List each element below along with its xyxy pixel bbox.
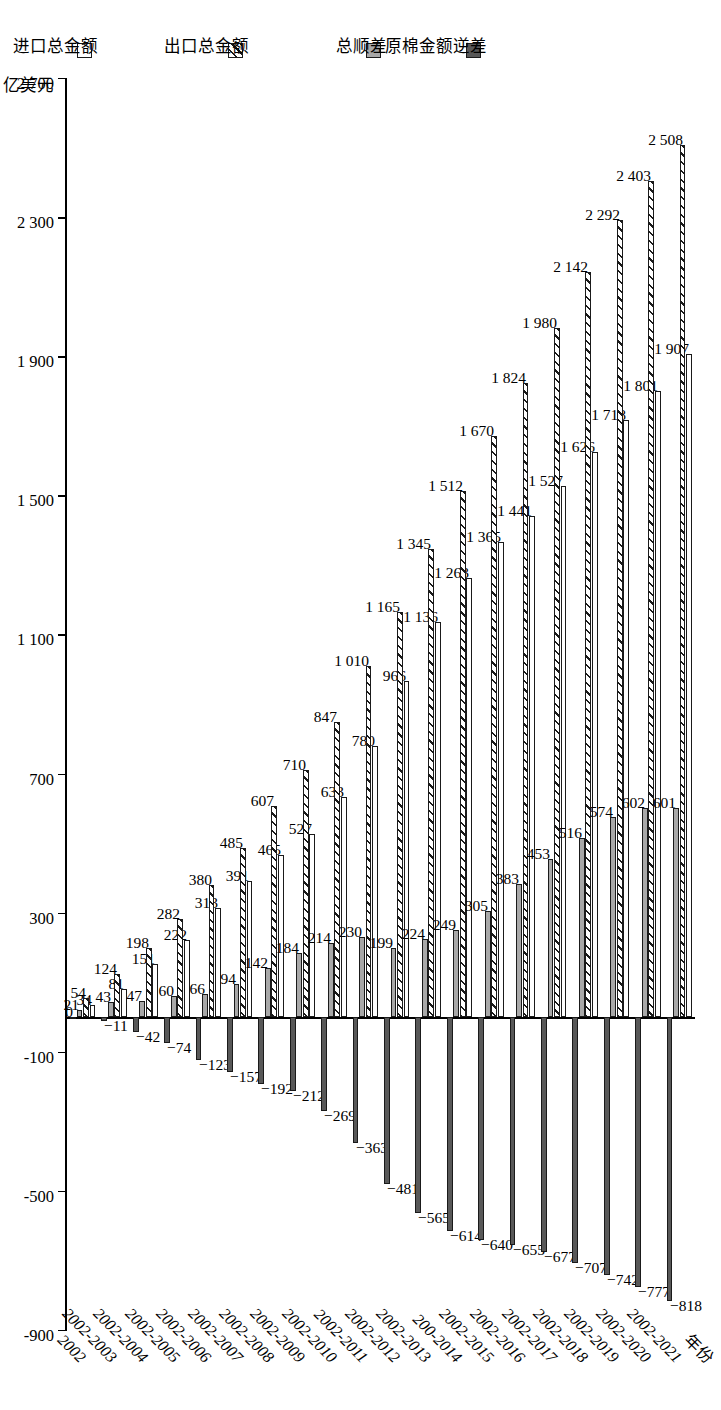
bar-出口总金额 [240, 848, 246, 1017]
value-axis-tick [58, 913, 67, 914]
bar-value-label: −269 [324, 1108, 356, 1124]
bar-value-label: 313 [195, 895, 218, 911]
value-axis-tick-label: 1 900 [17, 352, 54, 372]
bar-value-label: 124 [94, 961, 117, 977]
bar-原棉金额逆差 [635, 1017, 641, 1287]
bar-value-label: 485 [220, 836, 243, 852]
bar-value-label: 1 670 [459, 423, 494, 439]
bar-value-label: 633 [320, 784, 343, 800]
bar-value-label: 2 292 [585, 207, 620, 223]
bar-value-label: −123 [199, 1057, 231, 1073]
bar-总顺差 [610, 817, 616, 1017]
bar-总顺差 [548, 859, 554, 1017]
plot-region: 2 7002 3001 9001 5001 100700300-100-500-… [67, 78, 695, 1330]
bar-进口总金额 [529, 516, 535, 1017]
bar-进口总金额 [466, 578, 472, 1017]
bar-value-label: 222 [163, 927, 186, 943]
bar-value-label: 142 [245, 955, 268, 971]
bar-出口总金额 [114, 974, 120, 1017]
bar-value-label: 380 [188, 872, 211, 888]
value-axis-tick-label: 1 500 [17, 491, 54, 511]
bar-总顺差 [673, 808, 679, 1017]
bar-出口总金额 [585, 272, 591, 1017]
bar-总顺差 [485, 911, 491, 1017]
bar-出口总金额 [334, 722, 340, 1017]
bar-value-label: 574 [590, 805, 613, 821]
bar-出口总金额 [617, 220, 623, 1017]
bar-value-label: 224 [402, 926, 425, 942]
bar-value-label: −655 [513, 1242, 545, 1258]
bar-value-label: 199 [370, 935, 393, 951]
zero-baseline [67, 1017, 695, 1019]
bar-原棉金额逆差 [510, 1017, 516, 1245]
bar-value-label: 847 [314, 710, 337, 726]
bar-原棉金额逆差 [258, 1017, 264, 1084]
bar-进口总金额 [278, 855, 284, 1017]
bar-value-label: 60 [158, 983, 174, 999]
bar-出口总金额 [303, 770, 309, 1017]
bar-原棉金额逆差 [478, 1017, 484, 1240]
bar-value-label: 465 [258, 843, 281, 859]
bar-value-label: 184 [276, 940, 299, 956]
bar-总顺差 [453, 930, 459, 1017]
bar-value-label: 1 345 [396, 536, 431, 552]
bar-value-label: −565 [418, 1211, 450, 1227]
bar-原棉金额逆差 [353, 1017, 359, 1143]
bar-value-label: 516 [559, 825, 582, 841]
bar-value-label: 780 [352, 733, 375, 749]
value-axis-tick-label: 300 [29, 909, 54, 929]
bar-原棉金额逆差 [196, 1017, 202, 1060]
bar-value-label: 1 512 [428, 478, 463, 494]
bar-value-label: −157 [230, 1069, 262, 1085]
bar-出口总金额 [428, 549, 434, 1017]
bar-原棉金额逆差 [415, 1017, 421, 1213]
bar-value-label: −614 [450, 1228, 482, 1244]
bar-总顺差 [516, 884, 522, 1017]
bar-value-label: −42 [136, 1029, 160, 1045]
bar-进口总金额 [655, 391, 661, 1017]
bar-原棉金额逆差 [447, 1017, 453, 1231]
value-axis-tick-label: 700 [29, 770, 54, 790]
bar-出口总金额 [271, 806, 277, 1017]
value-axis-tick [58, 217, 67, 218]
category-axis-title: 年份 [680, 1327, 721, 1368]
bar-原棉金额逆差 [604, 1017, 610, 1275]
bar-value-label: −212 [293, 1088, 325, 1104]
bar-进口总金额 [623, 420, 629, 1017]
bar-value-label: 602 [621, 795, 644, 811]
bar-出口总金额 [397, 612, 403, 1017]
bar-value-label: 305 [464, 898, 487, 914]
value-axis-tick [58, 495, 67, 496]
bar-value-label: 43 [95, 989, 111, 1005]
bar-总顺差 [202, 994, 208, 1017]
bar-原棉金额逆差 [227, 1017, 233, 1072]
bar-总顺差 [234, 984, 240, 1017]
bar-出口总金额 [366, 666, 372, 1017]
value-axis-tick [58, 634, 67, 635]
bar-value-label: 0 [65, 1004, 73, 1020]
bar-总顺差 [265, 968, 271, 1017]
bar-总顺差 [579, 838, 585, 1017]
value-axis-tick-label: 1 100 [17, 630, 54, 650]
bar-value-label: 2 142 [553, 259, 588, 275]
bar-value-label: 2 508 [648, 132, 683, 148]
bar-value-label: 151 [132, 952, 155, 968]
bar-进口总金额 [592, 452, 598, 1017]
bar-总顺差 [171, 996, 177, 1017]
bar-value-label: −777 [638, 1284, 670, 1300]
bar-value-label: 282 [157, 906, 180, 922]
bar-出口总金额 [680, 145, 686, 1017]
legend-label: 进口总金额 [13, 33, 98, 57]
bar-总顺差 [328, 943, 334, 1017]
bar-进口总金额 [341, 797, 347, 1017]
bar-进口总金额 [215, 908, 221, 1017]
chart-figure: 亿美元 进口总金额出口总金额总顺差原棉金额逆差 2 7002 3001 9001… [0, 0, 721, 1410]
value-axis-tick-label: -100 [24, 1048, 54, 1068]
value-axis-line [65, 78, 67, 1330]
bar-总顺差 [642, 808, 648, 1017]
bar-value-label: 453 [527, 847, 550, 863]
chart-legend: 进口总金额出口总金额总顺差原棉金额逆差 [67, 34, 695, 68]
value-axis-tick-label: 2 700 [17, 74, 54, 94]
bar-value-label: 47 [127, 988, 143, 1004]
bar-value-label: 966 [383, 668, 406, 684]
